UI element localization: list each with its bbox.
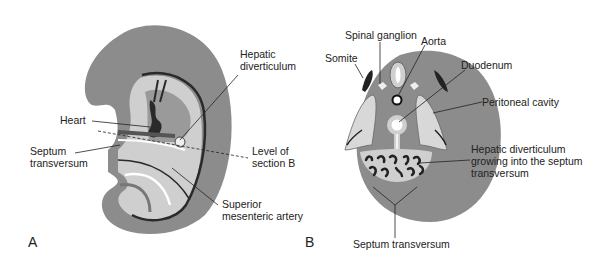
label-line: Hepatic diverticulum <box>471 143 582 155</box>
label-superior-mesenteric-artery: Superior mesenteric artery <box>222 198 303 222</box>
label-duodenum: Duodenum <box>461 59 512 71</box>
label-hepatic-diverticulum-b: Hepatic diverticulum growing into the se… <box>471 143 582 179</box>
label-line: transversum <box>30 157 88 169</box>
label-line: Septum <box>30 145 88 157</box>
embryo-cross-section <box>345 51 501 222</box>
label-line: growing into the septum <box>471 155 582 167</box>
label-septum-transversum-a: Septum transversum <box>30 145 88 169</box>
label-peritoneal-cavity: Peritoneal cavity <box>482 96 559 108</box>
label-aorta: Aorta <box>421 35 446 47</box>
label-line: Level of <box>252 145 295 157</box>
label-line: mesenteric artery <box>222 210 303 222</box>
panel-letter-a: A <box>28 234 37 250</box>
label-heart: Heart <box>60 114 86 126</box>
panel-letter-b: B <box>305 234 314 250</box>
diagram-canvas <box>0 0 602 263</box>
label-line: section B <box>252 157 295 169</box>
label-line: Superior <box>222 198 303 210</box>
label-spinal-ganglion: Spinal ganglion <box>345 29 417 41</box>
label-somite: Somite <box>325 52 358 64</box>
label-hepatic-diverticulum-a: Hepatic diverticulum <box>240 48 296 72</box>
label-line: diverticulum <box>240 60 296 72</box>
label-line: Hepatic <box>240 48 296 60</box>
label-level-of-section-b: Level of section B <box>252 145 295 169</box>
label-line: transversum <box>471 167 582 179</box>
label-septum-transversum-b: Septum transversum <box>353 238 450 250</box>
